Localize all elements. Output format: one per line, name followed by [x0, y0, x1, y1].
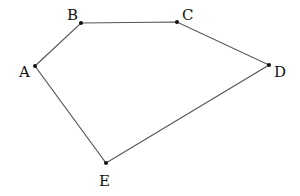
vertex-label: A — [18, 63, 30, 81]
vertex-a: A — [18, 63, 37, 81]
vertex-point — [175, 20, 179, 24]
vertex-point — [104, 161, 108, 165]
vertex-label: B — [67, 6, 78, 24]
vertex-label: E — [99, 172, 110, 190]
vertex-label: D — [274, 63, 286, 81]
pentagon-diagram: A B C D E — [0, 0, 300, 196]
vertex-c: C — [175, 6, 193, 24]
vertex-e: E — [99, 161, 110, 190]
vertex-point — [33, 64, 37, 68]
pentagon-outline — [35, 22, 269, 163]
vertex-label: C — [182, 6, 193, 24]
vertex-d: D — [267, 63, 286, 81]
vertex-point — [267, 63, 271, 67]
vertex-b: B — [67, 6, 83, 25]
vertex-point — [79, 21, 83, 25]
